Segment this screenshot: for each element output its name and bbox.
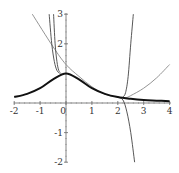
curve-line xyxy=(14,73,169,101)
y-tick-label: 2 xyxy=(57,39,63,49)
y-tick-label: -1 xyxy=(54,128,63,138)
x-tick-label: 1 xyxy=(89,106,95,116)
x-tick-label: 0 xyxy=(60,106,66,116)
plot-curves xyxy=(14,14,169,162)
y-tick-label: 3 xyxy=(57,9,63,19)
curve-line xyxy=(123,14,133,97)
x-tick-label: 4 xyxy=(167,106,173,116)
y-tick-label: -2 xyxy=(54,157,63,167)
x-tick-label: 3 xyxy=(141,106,147,116)
x-tick-label: -1 xyxy=(36,106,45,116)
function-plot: -2-10123432-1-2 xyxy=(0,0,179,173)
x-tick-label: -2 xyxy=(10,106,19,116)
x-tick-label: 2 xyxy=(115,106,121,116)
